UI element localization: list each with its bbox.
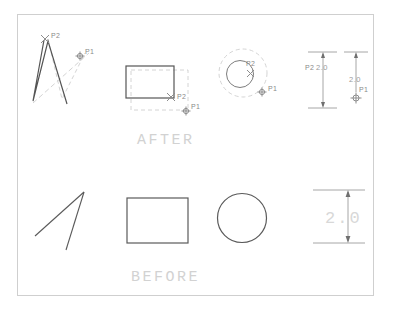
dimension-value-left: 2.0 [316,63,328,72]
p1-label: P1 [191,103,200,110]
dimension-value-right: 2.0 [349,75,361,84]
p1-label: P1 [85,48,94,55]
p2-label: P2 [305,64,314,71]
dimension-value: 2.0 [325,209,362,228]
p2-label: P2 [177,93,186,100]
drawing-border [18,15,374,296]
p2-label: P2 [246,60,255,67]
p2-label: P2 [51,32,60,39]
caption-before: BEFORE [131,269,200,286]
p1-label: P1 [359,86,368,93]
caption-after: AFTER [137,132,195,149]
drawing-canvas: P2 P1 P2 P1 [0,0,393,316]
p1-label: P1 [268,85,277,92]
